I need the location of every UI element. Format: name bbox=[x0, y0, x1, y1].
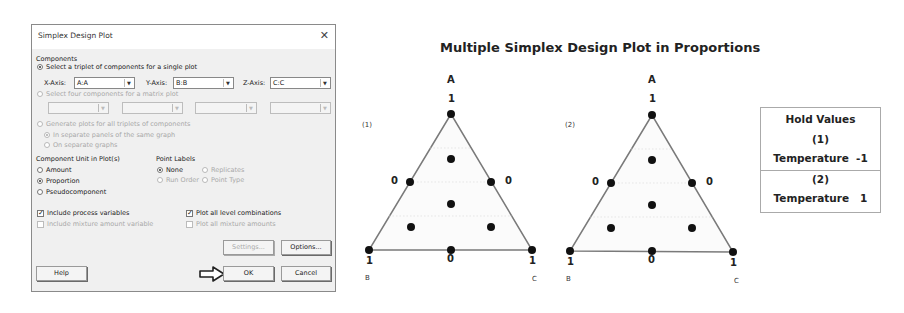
simplex-design-plot-dialog: Simplex Design Plot ✕ Components Select … bbox=[31, 24, 336, 292]
radio-select-four-label: Select four components for a matrix plot bbox=[46, 90, 178, 98]
legend-divider bbox=[761, 170, 880, 171]
radio-unit-amount-label: Amount bbox=[46, 166, 72, 174]
radio-unit-proportion[interactable] bbox=[37, 178, 43, 184]
simplex-plot-1 bbox=[360, 105, 542, 260]
matrix-component-3-dropdown[interactable]: ▼ bbox=[195, 102, 257, 114]
panel-2-axis-c: C bbox=[734, 277, 739, 285]
graph-title: Multiple Simplex Design Plot in Proporti… bbox=[440, 40, 760, 55]
radio-label-replicates-label: Replicates bbox=[211, 166, 244, 174]
z-axis-value: C:C bbox=[273, 79, 284, 87]
x-axis-dropdown[interactable]: A:A ▼ bbox=[74, 77, 135, 89]
legend-entry-1-text: Temperature -1 bbox=[761, 152, 880, 164]
legend-entry-2-text: Temperature 1 bbox=[761, 192, 880, 204]
matrix-component-4-dropdown[interactable]: ▼ bbox=[270, 102, 331, 114]
cancel-button[interactable]: Cancel bbox=[281, 266, 331, 281]
radio-separate-graphs-label: On separate graphs bbox=[53, 141, 117, 149]
panel-1-axis-a: A bbox=[447, 74, 455, 85]
radio-label-replicates[interactable] bbox=[202, 167, 208, 173]
chevron-down-icon: ▼ bbox=[172, 104, 181, 112]
chevron-down-icon: ▼ bbox=[98, 104, 107, 112]
x-axis-label: X-Axis: bbox=[44, 79, 66, 87]
hold-values-legend: Hold Values (1) Temperature -1 (2) Tempe… bbox=[760, 107, 881, 213]
radio-unit-proportion-label: Proportion bbox=[46, 177, 80, 185]
y-axis-dropdown[interactable]: B:B ▼ bbox=[173, 77, 234, 89]
panel-1-axis-b: B bbox=[365, 274, 370, 282]
checkbox-include-process-variables[interactable]: ✓ bbox=[37, 210, 44, 217]
radio-generate-all[interactable] bbox=[37, 121, 43, 127]
plot-all-levels-label: Plot all level combinations bbox=[196, 209, 281, 217]
chevron-down-icon: ▼ bbox=[124, 79, 133, 87]
z-axis-dropdown[interactable]: C:C ▼ bbox=[270, 77, 331, 89]
panel-1-axis-c: C bbox=[532, 275, 537, 283]
radio-unit-pseudocomponent-label: Pseudocomponent bbox=[46, 188, 106, 196]
chevron-down-icon: ▼ bbox=[320, 79, 329, 87]
radio-label-run-order-label: Run Order bbox=[166, 176, 199, 184]
radio-generate-all-label: Generate plots for all triplets of compo… bbox=[46, 120, 190, 128]
unit-heading: Component Unit in Plot(s) bbox=[36, 155, 120, 163]
close-icon[interactable]: ✕ bbox=[320, 29, 329, 42]
radio-label-none-label: None bbox=[166, 166, 183, 174]
components-heading: Components bbox=[36, 55, 77, 63]
panel-1-apex-tick: 1 bbox=[448, 93, 455, 104]
panel-2-apex-tick: 1 bbox=[649, 93, 656, 104]
radio-label-none[interactable] bbox=[157, 167, 163, 173]
radio-separate-panels[interactable] bbox=[44, 132, 50, 138]
z-axis-label: Z-Axis: bbox=[243, 79, 265, 87]
legend-entry-1-id: (1) bbox=[761, 133, 880, 145]
chevron-down-icon: ▼ bbox=[246, 104, 255, 112]
chevron-down-icon: ▼ bbox=[223, 79, 232, 87]
chevron-down-icon: ▼ bbox=[320, 104, 329, 112]
ok-button[interactable]: OK bbox=[223, 266, 274, 281]
checkbox-include-mixture-amount[interactable] bbox=[37, 221, 44, 228]
matrix-component-2-dropdown[interactable]: ▼ bbox=[122, 102, 183, 114]
simplex-plot-2 bbox=[560, 105, 745, 262]
legend-title: Hold Values bbox=[761, 113, 880, 125]
radio-select-four[interactable] bbox=[37, 91, 43, 97]
matrix-component-1-dropdown[interactable]: ▼ bbox=[48, 102, 109, 114]
help-button[interactable]: Help bbox=[36, 266, 87, 281]
panel-2-axis-a: A bbox=[648, 74, 656, 85]
point-labels-heading: Point Labels bbox=[156, 155, 195, 163]
include-mixture-amount-label: Include mixture amount variable bbox=[47, 220, 153, 228]
options-button[interactable]: Options... bbox=[281, 240, 331, 255]
y-axis-value: B:B bbox=[176, 79, 187, 87]
plot-all-amounts-label: Plot all mixture amounts bbox=[196, 220, 276, 228]
radio-select-triplet[interactable] bbox=[37, 64, 43, 70]
y-axis-label: Y-Axis: bbox=[146, 79, 167, 87]
dialog-titlebar: Simplex Design Plot ✕ bbox=[32, 25, 335, 49]
checkbox-plot-all-amounts[interactable] bbox=[186, 221, 193, 228]
settings-button[interactable]: Settings... bbox=[223, 240, 274, 255]
radio-label-point-type[interactable] bbox=[202, 177, 208, 183]
radio-label-point-type-label: Point Type bbox=[211, 176, 244, 184]
checkbox-plot-all-levels[interactable]: ✓ bbox=[186, 210, 193, 217]
legend-entry-2-id: (2) bbox=[761, 173, 880, 185]
radio-separate-panels-label: In separate panels of the same graph bbox=[53, 131, 175, 139]
arrow-right-icon bbox=[198, 265, 226, 283]
radio-select-triplet-label: Select a triplet of components for a sin… bbox=[46, 63, 197, 71]
radio-label-run-order[interactable] bbox=[157, 177, 163, 183]
radio-unit-pseudocomponent[interactable] bbox=[37, 189, 43, 195]
dialog-title: Simplex Design Plot bbox=[38, 31, 113, 40]
radio-separate-graphs[interactable] bbox=[44, 142, 50, 148]
x-axis-value: A:A bbox=[77, 79, 88, 87]
include-process-variables-label: Include process variables bbox=[47, 209, 129, 217]
radio-unit-amount[interactable] bbox=[37, 167, 43, 173]
panel-2-axis-b: B bbox=[566, 275, 571, 283]
